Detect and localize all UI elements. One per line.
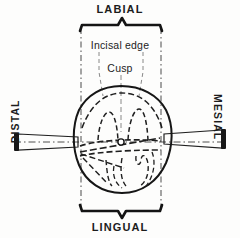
lingual-cusp-b — [121, 158, 126, 186]
diagram-canvas — [0, 0, 240, 238]
label-incisal-edge: Incisal edge — [0, 40, 240, 51]
labial-extent-bracket — [80, 18, 162, 31]
label-lingual: LINGUAL — [0, 222, 240, 233]
lingual-extent-bracket — [80, 205, 162, 218]
label-mesial: MESIAL — [213, 89, 224, 145]
label-labial: LABIAL — [0, 4, 240, 15]
labial-cusp-ridge-distal — [98, 112, 118, 140]
lingual-cusp-c — [136, 156, 148, 186]
center-point-marker — [118, 139, 124, 145]
label-cusp: Cusp — [0, 63, 240, 74]
tooth-orientation-figure: LABIAL LINGUAL DISTAL MESIAL Incisal edg… — [0, 0, 240, 238]
oblique-ridge-lower-a — [81, 154, 124, 168]
labial-inner-arc — [82, 93, 162, 128]
label-distal: DISTAL — [10, 93, 21, 149]
labial-cusp-ridge-mesial — [128, 109, 148, 140]
central-ridge-lower — [80, 150, 161, 156]
